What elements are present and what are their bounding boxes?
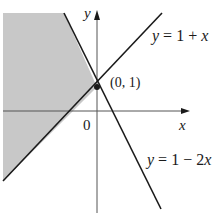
line-label-tail: x (204, 151, 211, 168)
line-label-y-1-minus-2x: y = 1 − 2x (147, 152, 211, 168)
origin-label: 0 (83, 118, 91, 133)
y-axis-arrow-icon (94, 10, 100, 20)
line-label-eq: = 1 − 2 (154, 151, 204, 168)
x-axis-label: x (179, 118, 186, 133)
line-label-y-1-plus-x: y = 1 + x (152, 28, 208, 44)
point-label: (0, 1) (110, 76, 140, 90)
intersection-point (94, 84, 100, 90)
line-label-tail: x (201, 27, 208, 44)
y-axis-label: y (84, 6, 91, 21)
x-axis-arrow-icon (181, 108, 190, 114)
line-label-eq: = 1 + (159, 27, 201, 44)
